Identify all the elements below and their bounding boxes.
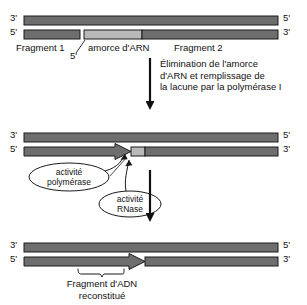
bottom-panel-left-bottom-prime: 5' <box>10 253 17 264</box>
top-panel-left-top-prime: 3' <box>10 12 17 23</box>
top-panel-fragment1 <box>24 30 80 39</box>
top-panel-left-bottom-prime: 5' <box>10 26 17 37</box>
top-panel-upper-strand <box>24 16 278 25</box>
bottom-panel-upper-strand <box>24 243 278 252</box>
middle-panel-left-bottom-prime: 5' <box>10 143 17 154</box>
bottom-panel-right-top-prime: 5' <box>283 239 290 250</box>
top-panel-primer-leader <box>76 40 85 53</box>
top-panel-primer-prime: 5' <box>70 50 77 61</box>
caption-fragment-1: Fragment 1 <box>16 42 65 53</box>
figure-canvas: 3' 5' 5' 3' Fragment 1 5' amorce d'ARN F… <box>0 0 307 305</box>
caption-rna-primer: amorce d'ARN <box>88 42 149 53</box>
middle-panel-new-dna <box>24 144 131 160</box>
bottom-panel-reconstituted-dna <box>24 254 145 270</box>
middle-panel-right-top-prime: 5' <box>283 129 290 140</box>
callout-rnase-arrowhead <box>125 160 132 166</box>
top-panel-right-bottom-prime: 3' <box>283 26 290 37</box>
middle-panel-right-bottom-prime: 3' <box>283 143 290 154</box>
bottom-panel-left-top-prime: 3' <box>10 239 17 250</box>
callout-polymerase-label: activité polymérase <box>39 167 99 187</box>
top-panel-right-top-prime: 5' <box>283 12 290 23</box>
callout-leader-a <box>110 157 127 176</box>
caption-reconstituted-fragment: Fragment d'ADN reconstitué <box>52 278 152 301</box>
step-1-description: Élimination de l'amorce d'ARN et remplis… <box>160 58 281 93</box>
bottom-panel-downstream-fragment <box>145 257 278 266</box>
top-panel-rna-primer <box>84 30 142 39</box>
bottom-panel-brace <box>78 269 124 277</box>
middle-panel-residual-primer <box>131 147 145 156</box>
callout-rnase-label: activité RNase <box>105 194 155 214</box>
bottom-panel-right-bottom-prime: 3' <box>283 253 290 264</box>
top-panel-fragment2 <box>142 30 278 39</box>
middle-panel-fragment2 <box>145 147 278 156</box>
middle-panel-upper-strand <box>24 133 278 142</box>
caption-fragment-2: Fragment 2 <box>174 42 223 53</box>
middle-panel-left-top-prime: 3' <box>10 129 17 140</box>
